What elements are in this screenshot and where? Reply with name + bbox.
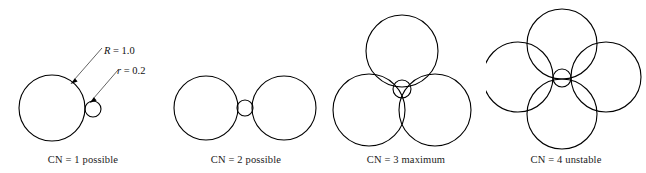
anion-circle-large	[19, 75, 85, 141]
anion-circle-large-bottom	[527, 79, 597, 149]
anion-circle-large-left	[486, 42, 553, 112]
anion-circle-large-right	[252, 76, 316, 140]
coordination-number-figure: R = 1.0 r = 0.2 CN = 1 possible CN = 2 p…	[0, 0, 646, 173]
panel-cn-1: R = 1.0 r = 0.2 CN = 1 possible	[0, 0, 166, 173]
arrow-head-radius-small	[90, 97, 97, 103]
label-radius-large-value: = 1.0	[110, 45, 134, 56]
panel-cn-2-drawing	[166, 0, 326, 173]
panel-cn-3-drawing	[326, 0, 486, 173]
anion-circle-large-right	[571, 42, 641, 112]
caption-cn-1: CN = 1 possible	[0, 154, 166, 165]
panel-cn-1-drawing	[0, 0, 166, 173]
anion-circle-large-top	[366, 15, 438, 87]
panel-cn-3: CN = 3 maximum	[326, 0, 486, 173]
caption-cn-4: CN = 4 unstable	[486, 154, 646, 165]
label-radius-small-value: = 0.2	[121, 65, 145, 76]
cation-circle-small	[237, 100, 253, 116]
label-radius-small: r = 0.2	[117, 65, 145, 76]
caption-cn-2: CN = 2 possible	[166, 154, 326, 165]
panel-cn-4: CN = 4 unstable	[486, 0, 646, 173]
panel-cn-4-drawing	[486, 0, 646, 173]
label-radius-large: R = 1.0	[104, 45, 135, 56]
cation-circle-small	[85, 101, 101, 117]
panel-cn-2: CN = 2 possible	[166, 0, 326, 173]
anion-circle-large-left	[174, 76, 238, 140]
leader-line-radius-small	[93, 70, 118, 99]
caption-cn-3: CN = 3 maximum	[326, 154, 486, 165]
leader-line-radius-large	[74, 48, 102, 80]
